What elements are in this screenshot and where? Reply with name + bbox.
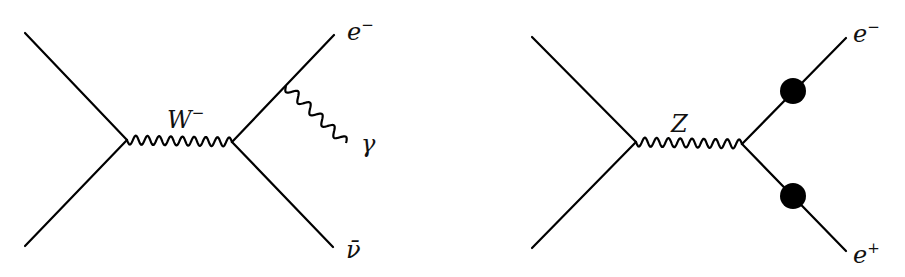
blob-vertex-bottom — [780, 183, 806, 209]
diagram-w-decay: W− e− γ ν̄ — [25, 16, 376, 264]
propagator-label-z: Z — [670, 110, 689, 138]
outgoing-antineutrino-line — [232, 142, 333, 247]
outgoing-electron-line — [232, 35, 334, 142]
incoming-line-top — [25, 33, 127, 140]
label-positron: e+ — [853, 239, 880, 269]
incoming-line-bottom — [532, 142, 636, 248]
z-propagator — [636, 138, 742, 149]
incoming-line-top — [532, 37, 636, 142]
propagator-label-w: W− — [167, 104, 204, 134]
label-electron: e− — [853, 18, 880, 48]
w-propagator — [127, 136, 232, 147]
photon-line — [285, 86, 346, 143]
label-electron: e− — [347, 16, 374, 46]
blob-vertex-top — [780, 78, 806, 104]
incoming-line-bottom — [25, 140, 127, 246]
feynman-diagrams: W− e− γ ν̄ Z e− e+ — [0, 0, 905, 277]
label-photon: γ — [361, 130, 376, 158]
label-antineutrino: ν̄ — [346, 236, 361, 264]
diagram-z-decay: Z e− e+ — [532, 18, 880, 269]
